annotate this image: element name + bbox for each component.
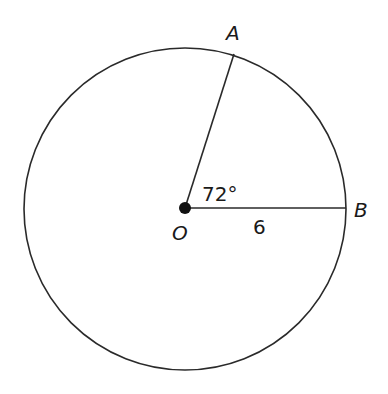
radius-label: 6: [253, 215, 266, 239]
center-point: [179, 202, 191, 214]
point-label-a: A: [224, 21, 240, 45]
circle-diagram: A B O 72° 6: [0, 0, 388, 394]
point-label-b: B: [354, 198, 368, 222]
angle-label: 72°: [202, 182, 237, 206]
center-label-o: O: [172, 221, 188, 245]
